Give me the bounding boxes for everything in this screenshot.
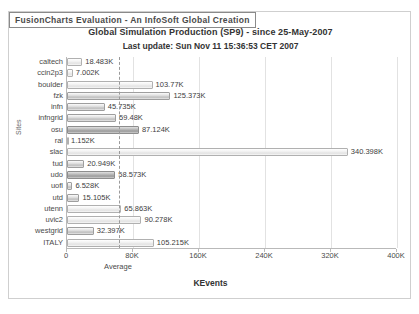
bar-row: utd15.105K (67, 193, 396, 204)
bar-row: boulder103.77K (67, 80, 396, 91)
bar-value-label: 6.528K (75, 181, 99, 191)
bar-infn[interactable] (67, 103, 105, 111)
bar-value-label: 7.002K (76, 68, 100, 78)
category-label: utd (53, 192, 63, 203)
bar-row: ccin2p37.002K (67, 68, 396, 79)
bar-row: uofl6.528K (67, 181, 396, 192)
bar-value-label: 18.483K (85, 57, 113, 67)
bar-value-label: 15.105K (82, 193, 110, 203)
bar-row: infn45.735K (67, 102, 396, 113)
category-label: ral (55, 135, 63, 146)
y-axis-title: Sites (15, 119, 22, 135)
bar-utenn[interactable] (67, 205, 121, 213)
bar-value-label: 58.573K (118, 170, 146, 180)
bar-row: slac340.398K (67, 147, 396, 158)
category-label: boulder (38, 79, 63, 90)
bar-infngrid[interactable] (67, 114, 116, 122)
bar-row: fzk125.373K (67, 91, 396, 102)
bar-row: infngrid59.48K (67, 113, 396, 124)
category-label: tud (53, 158, 63, 169)
bar-utd[interactable] (67, 194, 79, 202)
bar-value-label: 125.373K (173, 91, 205, 101)
bar-udo[interactable] (67, 171, 115, 179)
bar-value-label: 45.735K (108, 102, 136, 112)
x-tick-label: 320K (321, 251, 339, 260)
x-tick-label: 400K (387, 251, 405, 260)
bar-value-label: 340.398K (351, 147, 383, 157)
category-label: ccin2p3 (37, 67, 63, 78)
bar-value-label: 59.48K (119, 113, 143, 123)
bar-value-label: 105.215K (157, 238, 189, 248)
bar-uvic2[interactable] (67, 216, 141, 224)
bar-value-label: 32.397K (97, 226, 125, 236)
bar-ccin2p3[interactable] (67, 69, 73, 77)
bar-ral[interactable] (67, 137, 69, 145)
category-label: osu (51, 124, 63, 135)
bar-row: ITALY105.215K (67, 238, 396, 249)
category-label: caltech (39, 56, 63, 67)
x-tick-label: 240K (255, 251, 273, 260)
chart-subtitle: Last update: Sun Nov 11 15:36:53 CET 200… (9, 41, 412, 51)
bar-row: osu87.124K (67, 125, 396, 136)
x-axis-title: KEvents (9, 278, 412, 288)
bar-uofl[interactable] (67, 182, 72, 190)
category-label: udo (50, 169, 63, 180)
plot-area: caltech18.483Kccin2p37.002Kboulder103.77… (66, 57, 396, 249)
category-label: infngrid (38, 112, 63, 123)
bar-osu[interactable] (67, 126, 139, 134)
bar-row: westgrid32.397K (67, 226, 396, 237)
bar-value-label: 90.278K (144, 215, 172, 225)
category-label: fzk (53, 90, 63, 101)
bar-row: ral1.152K (67, 136, 396, 147)
bar-row: caltech18.483K (67, 57, 396, 68)
bar-boulder[interactable] (67, 81, 153, 89)
bar-value-label: 87.124K (142, 125, 170, 135)
chart-frame: FusionCharts Evaluation - An InfoSoft Gl… (8, 11, 411, 299)
category-label: utenn (44, 203, 63, 214)
category-label: westgrid (35, 225, 63, 236)
category-label: uofl (51, 180, 63, 191)
bar-westgrid[interactable] (67, 227, 94, 235)
bar-slac[interactable] (67, 148, 348, 156)
average-line (119, 57, 120, 248)
bar-tud[interactable] (67, 160, 84, 168)
x-tick-label: 160K (189, 251, 207, 260)
bar-row: uvic290.278K (67, 215, 396, 226)
evaluation-watermark: FusionCharts Evaluation - An InfoSoft Gl… (9, 12, 256, 28)
bar-caltech[interactable] (67, 58, 82, 66)
bar-value-label: 20.949K (87, 159, 115, 169)
average-caption: Average (104, 262, 132, 271)
bar-value-label: 1.152K (71, 136, 95, 146)
x-tick-label: 0 (64, 251, 68, 260)
x-tick-label: 80K (125, 251, 138, 260)
category-label: infn (51, 101, 63, 112)
category-label: uvic2 (45, 214, 63, 225)
bar-ITALY[interactable] (67, 239, 154, 247)
bar-row: utenn65.863K (67, 204, 396, 215)
category-label: slac (50, 146, 63, 157)
bar-row: udo58.573K (67, 170, 396, 181)
gridline-vertical (397, 57, 398, 248)
chart-title: Global Simulation Production (SP9) - sin… (9, 27, 412, 37)
bar-value-label: 103.77K (156, 80, 184, 90)
bar-value-label: 65.863K (124, 204, 152, 214)
category-label: ITALY (43, 237, 63, 248)
bar-row: tud20.949K (67, 159, 396, 170)
